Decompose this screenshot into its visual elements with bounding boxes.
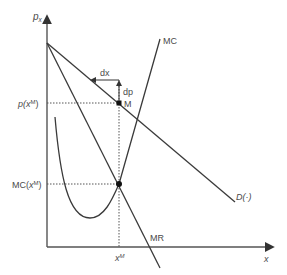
dx-label: dx [100, 68, 110, 78]
price-tick-label: p(xM) [17, 99, 39, 109]
quantity-tick-label: xM [114, 253, 125, 263]
monopoly-point-M [117, 101, 122, 106]
mr-curve-label: MR [150, 233, 164, 243]
y-axis-label: px [32, 11, 43, 23]
mr-mc-intersection-point [116, 181, 122, 187]
demand-curve-label: D(·) [236, 192, 252, 202]
demand-curve [47, 43, 235, 202]
dp-label: dp [123, 87, 133, 97]
marginal-cost-curve [55, 39, 160, 218]
mc-curve-label: MC [163, 36, 177, 46]
mc-tick-label: MC(xM) [12, 180, 42, 190]
monopoly-point-label: M [124, 99, 132, 109]
x-axis-label: x [263, 254, 269, 264]
monopoly-diagram: px x MC D(·) MR M dx dp p(xM) MC(xM) xM [0, 0, 287, 275]
